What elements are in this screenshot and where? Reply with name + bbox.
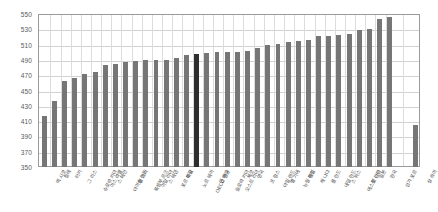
bar [164, 60, 169, 167]
bar [413, 125, 418, 167]
y-axis-tick-label: 410 [21, 118, 32, 125]
bar [174, 58, 179, 167]
bar [265, 45, 270, 167]
bar [336, 35, 341, 167]
bar [326, 36, 331, 167]
bar [62, 81, 67, 167]
bar [184, 55, 189, 167]
y-axis-tick-label: 550 [21, 11, 32, 18]
x-axis-tick-label: 그리스 [86, 168, 98, 184]
y-axis-tick-label: 490 [21, 56, 32, 63]
x-axis-tick-label: 노르웨이 [200, 168, 215, 188]
x-axis-tick-label: 헝가리 [137, 168, 149, 184]
bar [276, 44, 281, 167]
bar [52, 101, 57, 167]
x-axis-tick-label: 상하이 [426, 168, 438, 184]
bar [123, 62, 128, 167]
bar [143, 60, 148, 167]
x-axis-tick-label: 프랑스 [269, 168, 281, 184]
x-axis-tick-label: 터키 [73, 168, 83, 180]
y-axis-tick-label: 430 [21, 102, 32, 109]
x-axis-tick-label: 독일 [307, 168, 317, 180]
bar [133, 61, 138, 167]
bar [154, 60, 159, 167]
y-axis-tick-label: 450 [21, 87, 32, 94]
bar [82, 74, 87, 167]
bar [72, 78, 77, 167]
bar [367, 29, 372, 167]
bar-series [38, 14, 420, 167]
bar [93, 72, 98, 167]
bar [306, 40, 311, 167]
bar [245, 51, 250, 167]
bar [347, 34, 352, 167]
x-axis-tick-label: 한국 [388, 168, 398, 180]
bar [235, 52, 240, 168]
y-axis-tick-label: 530 [21, 26, 32, 33]
x-axis-tick-label: 싱가포르 [403, 168, 418, 188]
bar [225, 52, 230, 168]
bar [377, 19, 382, 167]
chart-figure: 550530510490470450430410390370350 멕시코칠레터… [0, 0, 438, 212]
y-axis-tick-label: 390 [21, 133, 32, 140]
y-axis-tick-label: 510 [21, 41, 32, 48]
bar [316, 36, 321, 167]
x-axis-tick-label: 미국 [185, 168, 195, 180]
bar [255, 48, 260, 167]
bar [42, 116, 47, 167]
y-axis-tick-label: 350 [21, 164, 32, 171]
bar [387, 17, 392, 167]
bar [103, 65, 108, 168]
bar [113, 64, 118, 167]
bar [215, 52, 220, 167]
bar [357, 30, 362, 167]
y-axis: 550530510490470450430410390370350 [0, 14, 36, 167]
bar [296, 41, 301, 167]
y-axis-tick-label: 470 [21, 72, 32, 79]
bar [194, 54, 199, 167]
bar [286, 42, 291, 167]
x-axis-labels: 멕시코칠레터키그리스슈로바키아이스라엘스페인아이슬란드헝가리룩셈부르크이탈리아스… [38, 168, 420, 212]
bar [204, 53, 209, 167]
y-axis-tick-label: 370 [21, 148, 32, 155]
